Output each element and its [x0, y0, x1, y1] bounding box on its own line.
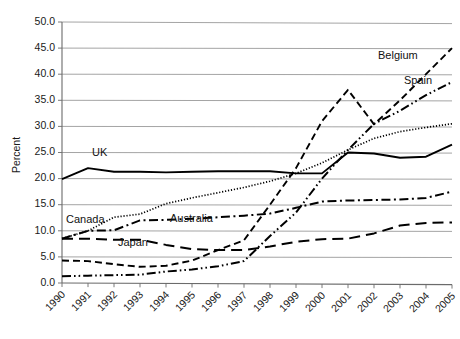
y-axis-title: Percent — [10, 137, 22, 173]
x-tick-label-2001: 2001 — [328, 289, 353, 314]
series-label-australia: Australia — [170, 212, 214, 224]
gridline-50.0 — [62, 22, 452, 24]
gridline-40.0 — [62, 74, 452, 75]
y-tick-label: 10.0 — [35, 224, 56, 236]
gridline-20.0 — [62, 179, 452, 180]
y-tick-label: 45.0 — [35, 41, 56, 53]
y-tick-label: 40.0 — [35, 67, 56, 79]
y-tick-label: 25.0 — [35, 145, 56, 157]
series-label-japan: Japan — [118, 236, 148, 248]
chart-canvas: 0.05.010.015.020.025.030.035.040.045.050… — [0, 0, 460, 339]
x-tick-label-2004: 2004 — [406, 289, 431, 314]
x-tick-label-2000: 2000 — [302, 289, 327, 314]
series-label-uk: UK — [92, 146, 108, 158]
x-axis-tick-labels: 1990199119921993199419951996199719981999… — [42, 288, 457, 315]
x-tick-label-1995: 1995 — [172, 288, 197, 313]
series-label-spain: Spain — [404, 74, 432, 86]
y-tick-label: 50.0 — [35, 15, 56, 27]
gridline-25.0 — [62, 153, 452, 154]
x-tick-label-1997: 1997 — [224, 289, 249, 314]
x-tick-label-1996: 1996 — [198, 288, 223, 313]
series-label-canada: Canada — [66, 213, 105, 225]
x-tick-label-1998: 1998 — [250, 289, 275, 314]
x-tick-label-1992: 1992 — [94, 288, 119, 313]
gridline-10.0 — [62, 231, 452, 232]
x-tick-label-2002: 2002 — [354, 289, 379, 314]
series-line-uk — [62, 145, 452, 179]
x-tick-label-1991: 1991 — [68, 288, 93, 313]
series-label-belgium: Belgium — [378, 49, 418, 61]
y-tick-label: 5.0 — [40, 250, 55, 262]
y-tick-label: 30.0 — [35, 119, 56, 131]
y-tick-label: 0.0 — [40, 276, 55, 288]
x-tick-label-1999: 1999 — [276, 289, 301, 314]
gridline-5.0 — [62, 257, 452, 258]
x-tick-label-1990: 1990 — [42, 288, 67, 313]
x-tick-label-1993: 1993 — [120, 288, 145, 313]
percent-by-country-line-chart: 0.05.010.015.020.025.030.035.040.045.050… — [0, 0, 460, 339]
y-tick-label: 20.0 — [35, 171, 56, 183]
y-tick-label: 35.0 — [35, 93, 56, 105]
gridline-30.0 — [62, 126, 452, 127]
x-tick-label-2005: 2005 — [432, 289, 457, 314]
y-axis-tick-labels: 0.05.010.015.020.025.030.035.040.045.050… — [35, 15, 56, 288]
x-axis-line — [62, 283, 452, 285]
series-inline-labels: UKCanadaAustraliaJapanBelgiumSpain — [66, 49, 432, 249]
y-tick-label: 15.0 — [35, 197, 56, 209]
x-tick-label-2003: 2003 — [380, 289, 405, 314]
gridline-15.0 — [62, 205, 452, 206]
gridline-35.0 — [62, 100, 452, 101]
x-tick-label-1994: 1994 — [146, 288, 171, 313]
